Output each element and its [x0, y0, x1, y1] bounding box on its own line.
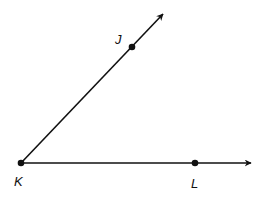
label-l: L: [191, 176, 198, 191]
label-k: K: [14, 174, 24, 189]
ray-kj: [21, 14, 163, 163]
angle-diagram: J K L: [0, 0, 264, 200]
label-j: J: [114, 32, 122, 47]
point-k: [18, 160, 25, 167]
point-l: [192, 160, 199, 167]
point-j: [129, 44, 136, 51]
